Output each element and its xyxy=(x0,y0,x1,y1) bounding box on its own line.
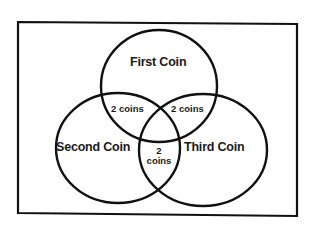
label-first-third-intersection: 2 coins xyxy=(171,104,204,114)
label-first-second-intersection: 2 coins xyxy=(111,104,144,114)
venn-diagram-graphic xyxy=(0,0,312,229)
label-second-third-unit: coins xyxy=(145,156,173,166)
label-second-third-intersection: 2 coins xyxy=(145,146,173,166)
venn-diagram: First Coin 2 coins 2 coins Second Coin T… xyxy=(0,0,312,229)
circle-first-coin xyxy=(101,30,217,142)
label-third-coin: Third Coin xyxy=(184,141,245,154)
label-first-coin: First Coin xyxy=(130,56,186,69)
label-second-coin: Second Coin xyxy=(56,141,130,154)
